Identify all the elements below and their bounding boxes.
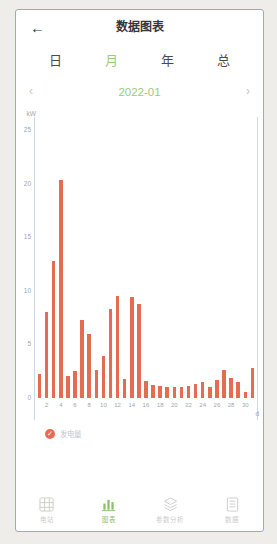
bar-slot [57,130,64,398]
chevron-left-icon[interactable]: ‹ [29,85,33,98]
x-axis-labels: 24681012141618202224262830 [36,402,256,408]
bar-day-10[interactable] [102,356,106,398]
legend-toggle[interactable]: ✓ 发电量 [45,428,81,439]
bar-day-22[interactable] [187,386,191,398]
bar-day-16[interactable] [144,381,148,398]
bar-day-11[interactable] [109,309,113,398]
bar-day-25[interactable] [208,387,212,398]
bar-day-15[interactable] [137,304,141,398]
tab-year[interactable]: 年 [140,50,196,69]
x-tick-7 [79,402,86,408]
chevron-right-icon[interactable]: › [246,85,250,98]
bar-day-17[interactable] [151,385,155,398]
bar-day-13[interactable] [123,379,127,398]
nav-item-analysis[interactable]: 参数分析 [140,497,202,524]
bar-slot [135,130,142,398]
bar-slot [164,130,171,398]
bar-day-23[interactable] [194,384,198,398]
bar-day-19[interactable] [165,387,169,398]
x-tick-17 [150,402,157,408]
bar-slot [220,130,227,398]
nav-item-station[interactable]: 电站 [16,497,78,524]
tab-day[interactable]: 日 [28,50,84,69]
bar-day-28[interactable] [229,378,233,398]
bar-slot [64,130,71,398]
bar-day-30[interactable] [244,392,248,398]
bar-day-9[interactable] [95,370,99,398]
x-tick-10: 10 [100,402,107,408]
x-tick-26: 26 [213,402,220,408]
x-tick-18: 18 [157,402,164,408]
bar-slot [93,130,100,398]
bar-day-26[interactable] [215,380,219,398]
bar-day-21[interactable] [180,387,184,398]
y-axis-line [34,117,35,420]
y-tick-15: 15 [16,233,31,241]
back-arrow-icon[interactable]: ← [30,20,45,35]
bar-day-3[interactable] [52,261,56,398]
bar-slot [157,130,164,398]
y-tick-0: 0 [16,394,31,402]
grid-icon [39,497,54,512]
bar-slot [249,130,256,398]
bar-day-31[interactable] [251,368,255,398]
x-tick-30: 30 [242,402,249,408]
y-tick-25: 25 [16,126,31,134]
x-tick-11 [107,402,114,408]
x-tick-5 [64,402,71,408]
bar-slot [107,130,114,398]
x-tick-19 [164,402,171,408]
x-tick-3 [50,402,57,408]
legend-checkmark-icon: ✓ [45,429,55,439]
bar-slot [79,130,86,398]
nav-label: 参数分析 [156,514,184,524]
bar-slot [199,130,206,398]
x-tick-12: 12 [114,402,121,408]
nav-item-chart[interactable]: 图表 [78,497,140,524]
bar-slot [86,130,93,398]
bar-day-5[interactable] [66,376,70,399]
bar-slot [121,130,128,398]
x-tick-4: 4 [57,402,64,408]
tab-month[interactable]: 月 [84,50,140,69]
date-navigator: ‹ 2022-01 › [16,85,263,101]
bar-day-14[interactable] [130,297,134,398]
x-tick-28: 28 [228,402,235,408]
bar-slot [235,130,242,398]
nav-item-data[interactable]: 数据 [201,497,263,524]
bar-day-2[interactable] [45,312,49,398]
bar-day-4[interactable] [59,180,63,398]
x-tick-31 [249,402,256,408]
bar-day-18[interactable] [158,386,162,398]
bar-day-1[interactable] [38,374,42,398]
x-tick-2: 2 [43,402,50,408]
document-icon [225,497,240,512]
x-tick-15 [135,402,142,408]
bar-slot [114,130,121,398]
x-tick-22: 22 [185,402,192,408]
legend-label: 发电量 [60,428,81,439]
x-tick-20: 20 [171,402,178,408]
period-tabs: 日 月 年 总 [16,50,263,69]
y-axis-unit: kW [22,110,36,117]
bar-day-24[interactable] [201,382,205,398]
tab-total[interactable]: 总 [195,50,251,69]
layers-icon [163,497,178,512]
x-tick-27 [220,402,227,408]
bar-day-6[interactable] [73,371,77,398]
bar-day-20[interactable] [173,387,177,398]
bar-day-7[interactable] [80,320,84,398]
bar-slot [228,130,235,398]
bar-day-29[interactable] [236,382,240,398]
x-tick-23 [192,402,199,408]
bar-slot [43,130,50,398]
bar-slot [100,130,107,398]
bar-slot [171,130,178,398]
selected-month[interactable]: 2022-01 [16,85,263,99]
bar-day-12[interactable] [116,296,120,398]
x-tick-21 [178,402,185,408]
bar-day-8[interactable] [87,334,91,398]
bar-day-27[interactable] [222,370,226,398]
nav-label: 图表 [102,514,116,524]
bar-slot [185,130,192,398]
